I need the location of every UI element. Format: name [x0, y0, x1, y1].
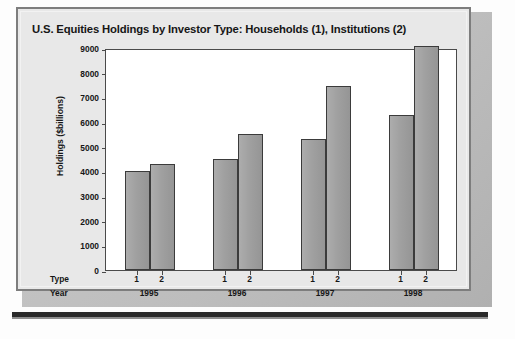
- bottom-rule-edge: [12, 317, 488, 319]
- y-axis-tick-label: 7000: [80, 93, 99, 103]
- y-axis-tick-label: 3000: [80, 192, 99, 202]
- y-axis-tick-label: 9000: [80, 44, 99, 54]
- x-axis-year-label: 1998: [404, 288, 423, 298]
- bar: [150, 164, 175, 270]
- y-axis-tick-mark: [102, 173, 106, 174]
- bar: [301, 139, 326, 270]
- y-axis-tick-mark: [102, 247, 106, 248]
- x-axis-type-label: 2: [335, 274, 340, 284]
- x-axis-year-label: 1996: [228, 288, 247, 298]
- x-axis-type-label: 1: [222, 274, 227, 284]
- bar-sheen: [415, 47, 438, 269]
- y-axis-title: Holdings ($billions): [55, 76, 65, 196]
- chart-page: U.S. Equities Holdings by Investor Type:…: [0, 0, 515, 339]
- bar-sheen: [302, 140, 325, 269]
- plot-area: 0100020003000400050006000700080009000: [105, 49, 457, 271]
- x-axis-year-label: 1997: [316, 288, 335, 298]
- bar: [326, 86, 351, 270]
- bar: [414, 46, 439, 270]
- bar-sheen: [151, 165, 174, 269]
- y-axis-tick-mark: [102, 222, 106, 223]
- plot-inner: 0100020003000400050006000700080009000: [106, 50, 456, 270]
- y-axis-tick-mark: [102, 50, 106, 51]
- x-axis-type-label: 1: [310, 274, 315, 284]
- y-axis-tick-mark: [102, 74, 106, 75]
- y-axis-tick-label: 2000: [80, 217, 99, 227]
- y-axis-tick-label: 1000: [80, 241, 99, 251]
- x-axis-type-label: 2: [247, 274, 252, 284]
- bar: [213, 159, 238, 270]
- axis-row-label-type: Type: [50, 274, 69, 284]
- x-axis-type-label: 2: [423, 274, 428, 284]
- y-axis-tick-mark: [102, 148, 106, 149]
- y-axis-tick-label: 4000: [80, 167, 99, 177]
- axis-row-label-year: Year: [50, 288, 68, 298]
- bar: [238, 134, 263, 270]
- y-axis-tick-label: 0: [94, 266, 99, 276]
- y-axis-tick-label: 8000: [80, 69, 99, 79]
- x-axis-type-label: 2: [159, 274, 164, 284]
- bar-sheen: [214, 160, 237, 269]
- y-axis-tick-label: 5000: [80, 143, 99, 153]
- x-axis-type-label: 1: [134, 274, 139, 284]
- bar: [125, 171, 150, 270]
- y-axis-tick-mark: [102, 99, 106, 100]
- bar: [389, 115, 414, 270]
- y-axis-tick-mark: [102, 124, 106, 125]
- x-axis-type-label: 1: [398, 274, 403, 284]
- x-axis-year-label: 1995: [140, 288, 159, 298]
- chart-title: U.S. Equities Holdings by Investor Type:…: [32, 23, 462, 35]
- y-axis-tick-mark: [102, 272, 106, 273]
- bar-sheen: [239, 135, 262, 269]
- chart-card: U.S. Equities Holdings by Investor Type:…: [16, 7, 471, 291]
- bar-sheen: [126, 172, 149, 269]
- bar-sheen: [327, 87, 350, 269]
- bar-sheen: [390, 116, 413, 269]
- y-axis-tick-label: 6000: [80, 118, 99, 128]
- y-axis-tick-mark: [102, 198, 106, 199]
